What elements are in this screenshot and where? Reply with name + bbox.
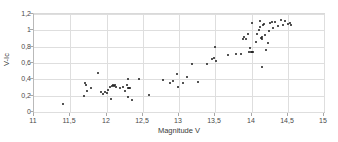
gridline-vertical — [143, 14, 144, 112]
data-point — [251, 22, 253, 24]
x-axis-title: Magnitude V — [33, 126, 325, 135]
data-point — [268, 30, 270, 32]
x-axis-tick-label: 13,5 — [199, 117, 229, 125]
x-axis-tick-label: 15 — [308, 117, 338, 125]
data-point — [197, 81, 199, 83]
x-axis-tick-mark — [251, 113, 252, 116]
data-point — [191, 63, 193, 65]
data-point — [277, 25, 279, 27]
x-axis-tick-mark — [142, 113, 143, 116]
data-point — [267, 42, 269, 44]
data-point — [280, 19, 282, 21]
data-point — [148, 94, 150, 96]
data-point — [186, 76, 188, 78]
data-point — [245, 38, 247, 40]
data-point — [282, 24, 284, 26]
x-axis-tick-mark — [323, 113, 324, 116]
data-point — [249, 47, 251, 49]
data-point — [83, 95, 85, 97]
data-point — [62, 103, 64, 105]
data-point — [110, 98, 112, 100]
x-axis-tick-mark — [106, 113, 107, 116]
data-point — [102, 93, 104, 95]
gridline-vertical — [107, 14, 108, 112]
y-axis-tick-label: 0,2 — [3, 92, 31, 99]
y-axis-tick-label: 0 — [3, 108, 31, 115]
data-point — [131, 99, 133, 101]
x-axis-tick-label: 12 — [91, 117, 121, 125]
data-point — [127, 78, 129, 80]
data-point — [252, 51, 254, 53]
data-point — [261, 66, 263, 68]
x-axis-tick-label: 12,5 — [127, 117, 157, 125]
data-point — [169, 82, 171, 84]
data-point — [138, 78, 140, 80]
data-point — [259, 26, 261, 28]
data-point — [290, 24, 292, 26]
data-point — [235, 53, 237, 55]
data-point — [284, 20, 286, 22]
gridline-vertical — [215, 14, 216, 112]
data-point — [261, 36, 263, 38]
data-point — [86, 90, 88, 92]
data-point — [85, 84, 87, 86]
data-point — [162, 79, 164, 81]
data-point — [115, 86, 117, 88]
x-axis-tick-mark — [287, 113, 288, 116]
data-point — [182, 82, 184, 84]
x-axis-tick-label: 14 — [236, 117, 266, 125]
data-point — [255, 41, 257, 43]
data-point — [122, 86, 124, 88]
x-axis-tick-label: 11 — [18, 117, 48, 125]
data-point — [274, 21, 276, 23]
gridline-vertical — [324, 14, 325, 112]
x-axis-tick-label: 11,5 — [54, 117, 84, 125]
x-axis-tick-label: 13 — [163, 117, 193, 125]
data-point — [258, 29, 260, 31]
data-point — [176, 73, 178, 75]
x-axis-tick-mark — [178, 113, 179, 116]
data-point — [129, 87, 131, 89]
data-point — [124, 90, 126, 92]
data-point — [119, 87, 121, 89]
data-point — [264, 34, 266, 36]
data-point — [90, 87, 92, 89]
data-point — [106, 92, 108, 94]
data-point — [213, 57, 215, 59]
gridline-vertical — [252, 14, 253, 112]
data-point — [227, 54, 229, 56]
x-axis-tick-layer: 1111,51212,51313,51414,515 — [33, 113, 325, 127]
y-axis-tick-label: 1,2 — [3, 10, 31, 17]
cut-off-header-text — [2, 0, 92, 8]
data-point — [127, 96, 129, 98]
data-point — [272, 27, 274, 29]
x-axis-tick-label: 14,5 — [272, 117, 302, 125]
data-point — [107, 89, 109, 91]
data-point — [263, 23, 265, 25]
data-point — [215, 60, 217, 62]
y-axis-tick-label: 1 — [3, 26, 31, 33]
gridline-vertical — [179, 14, 180, 112]
gridline-vertical — [288, 14, 289, 112]
data-point — [172, 80, 174, 82]
data-point — [265, 49, 267, 51]
gridline-vertical — [70, 14, 71, 112]
data-point — [206, 63, 208, 65]
data-point — [256, 33, 258, 35]
data-point — [259, 20, 261, 22]
x-axis-tick-mark — [69, 113, 70, 116]
data-point — [97, 72, 99, 74]
data-point — [240, 53, 242, 55]
data-point — [214, 46, 216, 48]
y-axis-title: V-Ic — [2, 40, 11, 80]
data-point — [242, 38, 244, 40]
data-point — [247, 33, 249, 35]
data-point — [271, 21, 273, 23]
scatter-chart-figure: 00,20,40,60,811,2 1111,51212,51313,51414… — [0, 0, 338, 142]
x-axis-tick-mark — [214, 113, 215, 116]
data-point — [177, 86, 179, 88]
x-axis-tick-mark — [33, 113, 34, 116]
plot-area — [33, 13, 325, 113]
